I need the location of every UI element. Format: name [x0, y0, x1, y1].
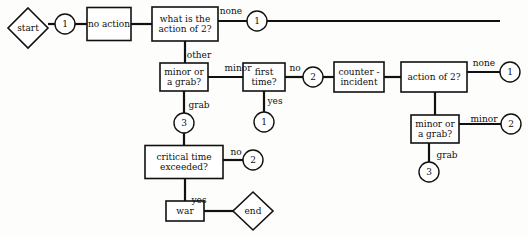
edge-label-lbl-grab-l: grab [188, 100, 209, 110]
node-what-action-of-2[interactable]: what is theaction of 2? [152, 7, 218, 41]
flowchart-canvas: start1no actionwhat is theaction of 2?1m… [0, 0, 528, 236]
node-label-conn-2-b: 2 [508, 119, 514, 129]
node-label-conn-3-a: 3 [181, 118, 187, 128]
node-label-conn-2-c: 2 [250, 155, 256, 165]
edge-label-lbl-minor-l: minor [225, 63, 253, 73]
edge-label-lbl-none-1: none [220, 6, 242, 16]
node-label-conn-1-a: 1 [62, 19, 68, 29]
node-minor-or-grab-l[interactable]: minor ora grab? [160, 63, 208, 91]
edge-label-lbl-no-1: no [289, 63, 300, 73]
node-conn-2-c[interactable]: 2 [243, 150, 263, 170]
node-conn-1-a[interactable]: 1 [55, 14, 75, 34]
node-label-no-action: no action [88, 19, 130, 29]
node-conn-2-b[interactable]: 2 [501, 114, 521, 134]
node-label-what-action-of-2: what is theaction of 2? [158, 13, 211, 34]
node-label-first-time: firsttime? [251, 66, 276, 87]
edge-label-lbl-yes-2: yes [190, 195, 206, 205]
node-counter-incident[interactable]: counter -incident [334, 62, 384, 92]
node-label-conn-3-b: 3 [426, 167, 432, 177]
node-conn-1-c[interactable]: 1 [254, 112, 274, 132]
edge-label-lbl-no-2: no [230, 147, 241, 157]
flowchart-diagram: start1no actionwhat is theaction of 2?1m… [0, 0, 528, 236]
node-label-critical-time: critical timeexceeded? [156, 151, 211, 172]
edge-label-lbl-grab-r: grab [436, 150, 457, 160]
edge-label-lbl-none-2: none [473, 58, 495, 68]
node-label-end: end [245, 206, 262, 216]
edge-label-lbl-other: other [187, 50, 212, 60]
node-critical-time[interactable]: critical timeexceeded? [145, 146, 223, 179]
node-label-conn-2-a: 2 [310, 72, 316, 82]
node-conn-1-d[interactable]: 1 [500, 62, 520, 82]
nodes-layer: start1no actionwhat is theaction of 2?1m… [8, 7, 521, 230]
node-end[interactable]: end [233, 192, 273, 230]
node-conn-1-b[interactable]: 1 [247, 11, 267, 31]
edge-label-lbl-yes-1: yes [266, 96, 282, 106]
node-label-minor-or-grab-l: minor ora grab? [164, 66, 204, 87]
node-label-minor-or-grab-r: minor ora grab? [415, 118, 455, 139]
node-no-action[interactable]: no action [87, 8, 131, 41]
node-conn-2-a[interactable]: 2 [303, 67, 323, 87]
node-start[interactable]: start [8, 8, 48, 48]
node-label-start: start [17, 23, 39, 33]
node-action-of-2[interactable]: action of 2? [401, 62, 467, 92]
node-conn-3-b[interactable]: 3 [419, 162, 439, 182]
node-label-conn-1-b: 1 [254, 16, 260, 26]
node-label-war: war [176, 206, 194, 216]
edge-labels-layer: noneotherminornoyesgrabnoneminorgrabnoye… [187, 6, 498, 205]
node-conn-3-a[interactable]: 3 [174, 113, 194, 133]
node-minor-or-grab-r[interactable]: minor ora grab? [411, 115, 459, 143]
edge-label-lbl-minor-r: minor [471, 114, 499, 124]
node-label-conn-1-c: 1 [261, 117, 267, 127]
node-label-action-of-2: action of 2? [407, 72, 460, 82]
node-label-conn-1-d: 1 [507, 67, 513, 77]
node-label-counter-incident: counter -incident [338, 66, 379, 87]
